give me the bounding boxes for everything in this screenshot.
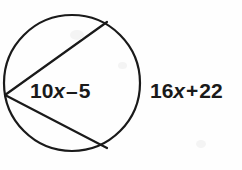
inner-coefficient: 10 xyxy=(30,79,53,102)
inner-constant: 5 xyxy=(79,79,91,102)
outer-coefficient: 16 xyxy=(150,79,173,102)
lower-chord-line xyxy=(5,95,107,148)
outer-operator: + xyxy=(185,79,199,102)
inner-variable: x xyxy=(53,79,65,102)
outer-variable: x xyxy=(173,79,185,102)
outer-constant: 22 xyxy=(199,79,222,102)
inscribed-angle-label: 10x–5 xyxy=(30,80,90,101)
geometry-figure: 10x–5 16x+22 xyxy=(0,0,242,170)
inner-operator: – xyxy=(65,79,79,102)
intercepted-arc-label: 16x+22 xyxy=(150,80,223,101)
